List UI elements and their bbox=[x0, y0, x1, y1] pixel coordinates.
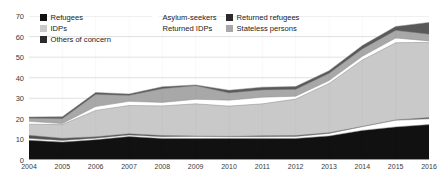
x-tick-label: 2006 bbox=[88, 163, 104, 170]
y-tick-label: 20 bbox=[6, 114, 24, 123]
y-tick-label: 70 bbox=[6, 12, 24, 21]
legend-swatch-icon bbox=[226, 14, 233, 21]
legend-item-label: Asylum-seekers bbox=[163, 14, 217, 22]
x-tick-label: 2005 bbox=[55, 163, 71, 170]
legend-item-label: Returned refugees bbox=[237, 14, 300, 22]
legend-swatch-icon bbox=[40, 25, 47, 32]
legend-item[interactable]: Asylum-seekers bbox=[152, 12, 217, 23]
y-tick-label: 40 bbox=[6, 73, 24, 82]
x-axis-tick-labels: 2004200520062007200820092010201120122013… bbox=[0, 163, 429, 177]
x-tick-label: 2011 bbox=[255, 163, 270, 170]
legend-swatch-icon bbox=[40, 36, 47, 43]
y-tick-label: 50 bbox=[6, 53, 24, 62]
x-tick-label: 2008 bbox=[155, 163, 171, 170]
x-tick-label: 2015 bbox=[388, 163, 404, 170]
legend-column: Asylum-seekersReturned IDPs bbox=[152, 12, 217, 34]
legend-item[interactable]: Returned refugees bbox=[226, 12, 299, 23]
legend-column: RefugeesIDPsOthers of concern bbox=[40, 12, 111, 45]
y-tick-label: 30 bbox=[6, 94, 24, 103]
legend-item-label: Refugees bbox=[51, 14, 84, 22]
legend-item[interactable]: Others of concern bbox=[40, 34, 111, 45]
legend-item[interactable]: Refugees bbox=[40, 12, 111, 23]
y-tick-label: 10 bbox=[6, 135, 24, 144]
x-tick-label: 2007 bbox=[121, 163, 137, 170]
legend-swatch-icon bbox=[152, 14, 159, 21]
x-tick-label: 2014 bbox=[355, 163, 371, 170]
x-tick-label: 2016 bbox=[421, 163, 437, 170]
chart-legend: RefugeesIDPsOthers of concernAsylum-seek… bbox=[40, 12, 340, 48]
legend-item[interactable]: Stateless persons bbox=[226, 23, 299, 34]
legend-item-label: Others of concern bbox=[51, 36, 111, 44]
y-tick-label: 60 bbox=[6, 32, 24, 41]
legend-item-label: IDPs bbox=[51, 25, 67, 33]
x-tick-label: 2010 bbox=[221, 163, 237, 170]
legend-item-label: Stateless persons bbox=[237, 25, 297, 33]
x-tick-label: 2004 bbox=[21, 163, 37, 170]
legend-column: Returned refugeesStateless persons bbox=[226, 12, 299, 34]
x-tick-label: 2013 bbox=[321, 163, 337, 170]
legend-swatch-icon bbox=[226, 25, 233, 32]
legend-item[interactable]: IDPs bbox=[40, 23, 111, 34]
x-tick-label: 2009 bbox=[188, 163, 204, 170]
legend-swatch-icon bbox=[152, 25, 159, 32]
legend-item-label: Returned IDPs bbox=[163, 25, 213, 33]
legend-item[interactable]: Returned IDPs bbox=[152, 23, 217, 34]
y-axis-tick-labels: 706050403020100 bbox=[6, 0, 24, 185]
x-tick-label: 2012 bbox=[288, 163, 304, 170]
legend-swatch-icon bbox=[40, 14, 47, 21]
